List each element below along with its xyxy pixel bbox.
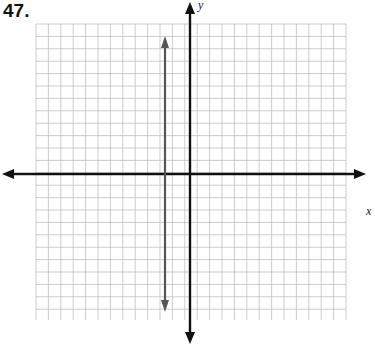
x-axis xyxy=(2,169,366,179)
coordinate-plane xyxy=(0,0,375,347)
line-top-arrow-icon xyxy=(161,36,169,48)
line-bottom-arrow-icon xyxy=(161,300,169,312)
x-axis-left-arrow-icon xyxy=(2,169,14,179)
y-axis-label: y xyxy=(198,0,203,13)
y-axis-top-arrow-icon xyxy=(185,2,195,14)
y-axis-bottom-arrow-icon xyxy=(185,332,195,344)
x-axis-label: x xyxy=(366,204,371,219)
x-axis-right-arrow-icon xyxy=(354,169,366,179)
